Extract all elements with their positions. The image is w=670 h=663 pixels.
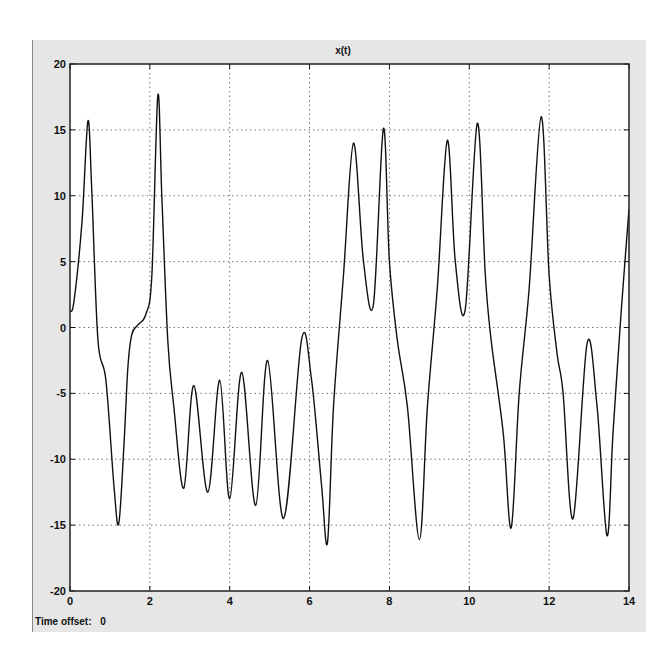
- y-tick-label: 20: [54, 58, 66, 70]
- time-offset: Time offset: 0: [35, 616, 112, 627]
- x-tick-label: 10: [463, 595, 475, 607]
- x-tick-label: 4: [227, 595, 234, 607]
- plot-area: x(t) 02468101214-20-15-10-505101520: [33, 40, 646, 632]
- time-offset-value: 0: [100, 616, 106, 627]
- y-tick-label: -15: [50, 519, 66, 531]
- x-tick-label: 14: [623, 595, 636, 607]
- scope-window: x(t) 02468101214-20-15-10-505101520 Time…: [32, 40, 646, 632]
- y-tick-label: 10: [54, 190, 66, 202]
- x-tick-label: 6: [307, 595, 313, 607]
- y-tick-label: 15: [54, 124, 66, 136]
- y-tick-label: -10: [50, 453, 66, 465]
- y-tick-label: 0: [60, 322, 66, 334]
- time-offset-label: Time offset:: [35, 616, 92, 627]
- y-tick-label: -5: [56, 387, 66, 399]
- chart-title: x(t): [335, 45, 351, 56]
- y-tick-label: 5: [60, 256, 66, 268]
- y-tick-label: -20: [50, 585, 66, 597]
- x-tick-label: 0: [67, 595, 73, 607]
- x-tick-label: 12: [543, 595, 555, 607]
- x-tick-label: 2: [147, 595, 153, 607]
- x-tick-label: 8: [386, 595, 392, 607]
